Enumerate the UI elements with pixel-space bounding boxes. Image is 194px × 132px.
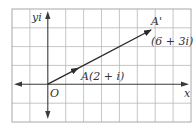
vector-segment-AA-prime xyxy=(76,30,151,69)
imaginary-axis-up-arrow-icon xyxy=(45,11,50,19)
real-axis-left-arrow-icon xyxy=(14,82,22,87)
origin-label: O xyxy=(50,87,59,100)
complex-plane-diagram: yi x O A(2 + i) A' (6 + 3i) xyxy=(0,0,194,132)
labels: yi x O A(2 + i) A' (6 + 3i) xyxy=(31,11,193,100)
point-A-prime-value: (6 + 3i) xyxy=(151,35,193,48)
imaginary-axis-label: yi xyxy=(31,11,42,24)
vector-segment-OA xyxy=(48,68,78,84)
imaginary-axis-down-arrow-icon xyxy=(45,111,50,119)
grid xyxy=(12,9,191,122)
point-A-prime-label: A' xyxy=(150,15,162,28)
point-A-label: A(2 + i) xyxy=(80,70,124,83)
real-axis-label: x xyxy=(184,87,191,100)
